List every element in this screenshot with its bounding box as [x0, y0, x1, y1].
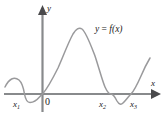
function-graph-figure: y x 0 x1 x2 x3 y = f(x)	[0, 0, 165, 124]
x-axis-label: x	[151, 79, 155, 88]
root-label-x2: x2	[99, 100, 106, 109]
root-label-x3-subscript: 3	[134, 104, 137, 110]
x-axis-arrowhead	[151, 89, 161, 99]
root-label-x1: x1	[13, 100, 20, 109]
y-axis-label: y	[47, 4, 51, 13]
function-equation-rhs: f(x)	[109, 24, 122, 34]
graph-canvas	[0, 0, 165, 124]
y-axis-arrowhead	[38, 5, 47, 15]
root-label-x2-subscript: 2	[103, 104, 106, 110]
root-label-x3: x3	[130, 100, 137, 109]
origin-label: 0	[45, 97, 50, 107]
root-label-x1-subscript: 1	[17, 104, 20, 110]
function-curve	[5, 28, 150, 104]
function-equation-operator: =	[99, 24, 109, 34]
function-equation-label: y = f(x)	[95, 25, 123, 35]
